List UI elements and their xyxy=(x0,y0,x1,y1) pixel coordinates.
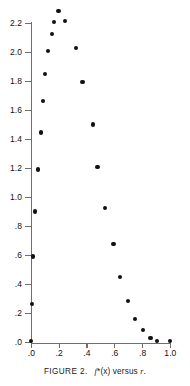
y-tick-label: .0 xyxy=(0,338,22,347)
figure-caption-arg: (x) xyxy=(100,367,110,376)
figure-caption: FIGURE 2.f*(x) versus r. xyxy=(0,366,190,377)
data-point xyxy=(50,32,54,36)
data-point xyxy=(30,302,34,306)
y-tick-mark xyxy=(25,313,31,314)
data-point xyxy=(63,19,67,23)
y-axis-line xyxy=(31,22,32,344)
x-axis-line xyxy=(31,343,171,344)
y-tick-mark xyxy=(25,110,31,111)
data-point xyxy=(118,275,122,279)
y-tick-label: 1.2 xyxy=(0,164,22,173)
y-tick-mark xyxy=(25,139,31,140)
y-tick-label: .8 xyxy=(0,222,22,231)
y-tick-label: .6 xyxy=(0,251,22,260)
data-point xyxy=(148,336,152,340)
scatter-plot: .0.2.4.6.81.01.21.41.61.82.02.2 .0.2.4.6… xyxy=(0,0,190,360)
data-point xyxy=(43,72,47,76)
data-point xyxy=(33,209,37,213)
x-tick-label: .6 xyxy=(105,349,125,358)
data-point xyxy=(39,130,43,134)
figure-caption-versus: versus xyxy=(113,367,138,376)
x-tick-label: 1.0 xyxy=(160,349,180,358)
y-tick-mark xyxy=(25,81,31,82)
y-tick-label: .2 xyxy=(0,309,22,318)
y-tick-label: 2.0 xyxy=(0,48,22,57)
x-tick-label: .0 xyxy=(21,349,41,358)
y-tick-mark xyxy=(25,226,31,227)
y-tick-label: 2.2 xyxy=(0,19,22,28)
data-point xyxy=(103,206,107,210)
y-tick-mark xyxy=(25,23,31,24)
x-tick-label: .4 xyxy=(77,349,97,358)
data-point xyxy=(126,299,130,303)
y-tick-mark xyxy=(25,168,31,169)
data-point xyxy=(95,165,99,169)
y-tick-mark xyxy=(25,197,31,198)
x-tick-label: .2 xyxy=(49,349,69,358)
figure-caption-label: FIGURE 2. xyxy=(44,367,88,376)
figure-caption-period: . xyxy=(144,367,146,376)
data-point xyxy=(91,122,95,126)
data-point xyxy=(41,99,45,103)
x-tick-label: .8 xyxy=(133,349,153,358)
data-point xyxy=(31,254,35,258)
y-tick-label: 1.6 xyxy=(0,106,22,115)
figure-container: .0.2.4.6.81.01.21.41.61.82.02.2 .0.2.4.6… xyxy=(0,0,190,386)
y-tick-mark xyxy=(25,52,31,53)
data-point xyxy=(133,317,137,321)
y-tick-mark xyxy=(25,284,31,285)
data-point xyxy=(46,49,50,53)
data-point xyxy=(80,80,84,84)
data-point xyxy=(36,167,40,171)
data-point xyxy=(74,46,78,50)
y-tick-label: 1.0 xyxy=(0,193,22,202)
y-tick-label: 1.4 xyxy=(0,135,22,144)
data-point xyxy=(168,339,172,343)
data-point xyxy=(52,20,56,24)
y-tick-label: 1.8 xyxy=(0,77,22,86)
data-point xyxy=(56,9,60,13)
data-point xyxy=(141,328,145,332)
data-point xyxy=(111,242,115,246)
y-tick-label: .4 xyxy=(0,280,22,289)
